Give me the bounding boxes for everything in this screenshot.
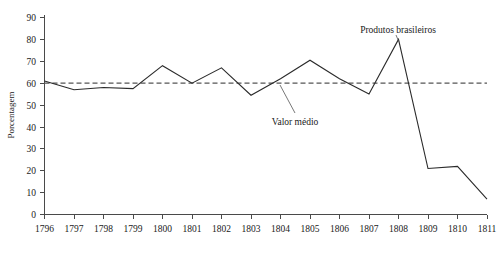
y-tick-label: 80 — [27, 35, 37, 45]
x-tick-label: 1810 — [448, 224, 467, 234]
x-tick-label: 1799 — [124, 224, 143, 234]
x-tick-label: 1804 — [271, 224, 290, 234]
chart-background — [0, 0, 500, 254]
x-tick-label: 1805 — [301, 224, 320, 234]
x-tick-label: 1811 — [478, 224, 497, 234]
y-tick-label: 30 — [27, 144, 37, 154]
x-tick-label: 1801 — [183, 224, 202, 234]
x-tick-label: 1808 — [389, 224, 408, 234]
x-tick-label: 1796 — [35, 224, 54, 234]
y-tick-label: 70 — [27, 57, 37, 67]
y-tick-label: 10 — [27, 188, 37, 198]
y-tick-label: 60 — [27, 79, 37, 89]
x-tick-label: 1798 — [94, 224, 113, 234]
x-tick-label: 1807 — [360, 224, 379, 234]
x-tick-label: 1802 — [212, 224, 231, 234]
chart-container: 90 80 70 60 50 40 30 20 10 0 Porcentagem — [0, 0, 500, 254]
x-tick-label: 1806 — [330, 224, 349, 234]
x-tick-label: 1809 — [419, 224, 438, 234]
y-axis-title: Porcentagem — [6, 92, 16, 139]
x-tick-label: 1800 — [153, 224, 172, 234]
y-tick-label: 20 — [27, 166, 37, 176]
y-tick-label: 50 — [27, 101, 37, 111]
series-annotation-label: Produtos brasileiros — [360, 25, 436, 35]
x-tick-label: 1797 — [65, 224, 84, 234]
y-tick-label: 40 — [27, 123, 37, 133]
x-tick-label: 1803 — [242, 224, 261, 234]
y-tick-label: 0 — [31, 210, 36, 220]
mean-annotation-label: Valor médio — [272, 117, 319, 127]
line-chart: 90 80 70 60 50 40 30 20 10 0 Porcentagem — [0, 0, 500, 254]
y-tick-label: 90 — [27, 13, 37, 23]
